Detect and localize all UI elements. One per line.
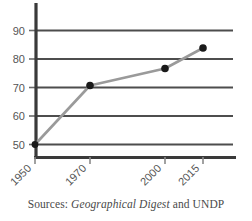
chart-source-caption: Sources: Geographical Digest and UNDP	[0, 198, 252, 210]
data-point-2000[interactable]	[161, 65, 169, 73]
ytick-label-70: 70	[13, 82, 25, 94]
xtick-label-1970: 1970	[63, 162, 89, 188]
data-line	[35, 48, 203, 145]
data-point-1950[interactable]	[32, 141, 39, 148]
data-point-1970[interactable]	[86, 82, 94, 90]
ytick-label-80: 80	[13, 53, 25, 65]
xtick-label-1950: 1950	[8, 162, 34, 188]
line-chart: 90 80 70 60 50 1950 1970 2000 2015	[0, 0, 252, 221]
xtick-label-2015: 2015	[176, 162, 202, 188]
ytick-label-90: 90	[13, 25, 25, 37]
caption-source-name: Geographical Digest	[71, 198, 170, 210]
xtick-label-2000: 2000	[138, 162, 164, 188]
ytick-label-50: 50	[13, 139, 25, 151]
y-axis-ticks	[29, 31, 35, 145]
y-axis-labels: 90 80 70 60 50	[13, 25, 25, 151]
caption-prefix: Sources:	[28, 198, 68, 210]
caption-suffix: and UNDP	[173, 198, 225, 210]
x-axis-labels: 1950 1970 2000 2015	[8, 162, 202, 188]
chart-container: 90 80 70 60 50 1950 1970 2000 2015 Sourc…	[0, 0, 252, 221]
data-point-2015[interactable]	[199, 44, 207, 52]
ytick-label-60: 60	[13, 110, 25, 122]
